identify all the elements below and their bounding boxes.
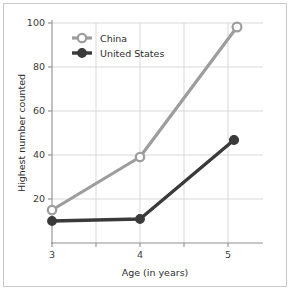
- legend-label-united-states: United States: [100, 48, 164, 59]
- legend-entry-china[interactable]: China: [72, 33, 127, 44]
- y-tick-label-20: 20: [33, 193, 45, 204]
- x-axis-title: Age (in years): [122, 267, 189, 278]
- y-tick-label-40: 40: [33, 149, 45, 160]
- chart-figure: 20 40 60 80 100 3 4 5 Age (in years) Hig…: [0, 0, 291, 291]
- series-united-states-point-age4: [136, 215, 145, 224]
- legend-entry-united-states[interactable]: United States: [72, 48, 164, 59]
- line-chart-plot: 20 40 60 80 100 3 4 5 Age (in years) Hig…: [0, 0, 291, 291]
- x-tick-label-3: 3: [49, 249, 55, 260]
- chart-legend: China United States: [72, 33, 164, 59]
- x-tick-label-5: 5: [225, 249, 231, 260]
- y-tick-label-80: 80: [33, 61, 45, 72]
- legend-marker-filled-circle: [78, 49, 87, 58]
- series-china-point-age5: [233, 23, 242, 32]
- y-axis-tick-marks: [48, 23, 52, 199]
- series-china-point-age4: [136, 153, 144, 161]
- legend-marker-open-circle: [78, 34, 86, 42]
- y-tick-label-100: 100: [27, 17, 45, 28]
- series-united-states-point-age5: [230, 136, 239, 145]
- series-china-point-age3: [48, 206, 56, 214]
- y-axis-title: Highest number counted: [16, 74, 27, 192]
- x-tick-label-4: 4: [137, 249, 143, 260]
- legend-label-china: China: [100, 33, 127, 44]
- series-united-states: [48, 136, 239, 226]
- x-axis-tick-marks: [52, 243, 228, 247]
- y-tick-label-60: 60: [33, 105, 45, 116]
- series-united-states-point-age3: [48, 217, 57, 226]
